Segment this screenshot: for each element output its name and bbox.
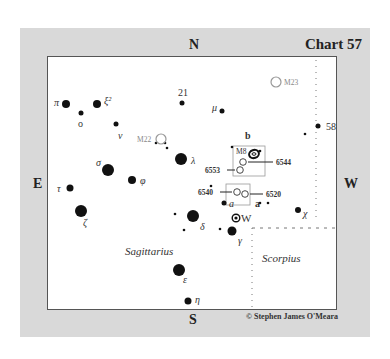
star-label: ν bbox=[118, 130, 123, 141]
region-letter-label: a bbox=[255, 198, 260, 209]
star-icon bbox=[75, 205, 87, 217]
cluster-label: M23 bbox=[284, 78, 298, 87]
faint-star-icon bbox=[174, 213, 177, 216]
star-icon bbox=[185, 298, 192, 305]
star-icon bbox=[187, 210, 199, 222]
star-icon bbox=[316, 124, 321, 129]
ngc-label: 6520 bbox=[266, 190, 281, 199]
star-icon bbox=[102, 164, 114, 176]
faint-star-icon bbox=[231, 146, 234, 149]
faint-star-icon bbox=[210, 185, 213, 188]
region-letter-label: b bbox=[245, 130, 251, 141]
star-icon bbox=[220, 109, 225, 114]
ngc-label: 6544 bbox=[276, 158, 291, 167]
faint-star-icon bbox=[259, 150, 262, 153]
star-label: ε bbox=[183, 274, 187, 285]
cluster-icon bbox=[156, 134, 166, 144]
faint-star-icon bbox=[166, 147, 169, 150]
faint-star-icon bbox=[183, 229, 186, 232]
open-cluster-icon bbox=[240, 159, 247, 166]
open-cluster-icon bbox=[242, 191, 249, 198]
star-label: 21 bbox=[178, 87, 188, 98]
star-icon bbox=[175, 153, 187, 165]
constellation-label: Scorpius bbox=[262, 252, 301, 264]
open-cluster-icon bbox=[237, 167, 244, 174]
faint-star-icon bbox=[267, 202, 270, 205]
star-label: λ bbox=[190, 155, 196, 166]
star-icon bbox=[67, 185, 74, 192]
star-icon bbox=[93, 100, 101, 108]
star-label: π bbox=[54, 97, 60, 108]
m8-nebula-core-icon bbox=[252, 153, 256, 156]
m8-nebula-icon bbox=[248, 149, 260, 160]
star-label: η bbox=[195, 294, 200, 305]
faint-star-icon bbox=[219, 228, 222, 231]
constellation-label: Sagittarius bbox=[125, 245, 173, 257]
star-icon bbox=[222, 201, 227, 206]
cluster-icon bbox=[271, 77, 281, 87]
star-label: a bbox=[229, 198, 234, 209]
ngc-label: 6553 bbox=[205, 166, 220, 175]
star-map: SagittariusScorpiusπoξ²ν21μ58λσφτζδγεηχa… bbox=[0, 0, 390, 359]
star-icon bbox=[228, 227, 237, 236]
cluster-label: M8 bbox=[236, 147, 247, 156]
star-label: γ bbox=[238, 235, 243, 246]
star-icon bbox=[114, 122, 119, 127]
variable-star-core-icon bbox=[234, 216, 237, 219]
star-label: χ bbox=[302, 208, 308, 219]
star-label: δ bbox=[200, 221, 205, 232]
open-cluster-icon bbox=[234, 189, 241, 196]
cluster-label: M22 bbox=[137, 135, 151, 144]
star-icon bbox=[128, 176, 136, 184]
variable-star-label: W bbox=[241, 212, 252, 224]
star-label: φ bbox=[140, 175, 146, 186]
star-label: o bbox=[78, 118, 83, 129]
star-label: τ bbox=[57, 183, 61, 194]
star-icon bbox=[180, 101, 185, 106]
star-label: ζ bbox=[83, 217, 88, 229]
star-label: 58 bbox=[326, 121, 336, 132]
star-label: μ bbox=[211, 102, 217, 113]
star-icon bbox=[295, 207, 301, 213]
star-icon bbox=[62, 100, 70, 108]
star-label: σ bbox=[96, 157, 102, 168]
ngc-label: 6540 bbox=[198, 188, 213, 197]
faint-star-icon bbox=[304, 133, 307, 136]
star-icon bbox=[79, 111, 84, 116]
star-label: ξ² bbox=[104, 95, 112, 107]
